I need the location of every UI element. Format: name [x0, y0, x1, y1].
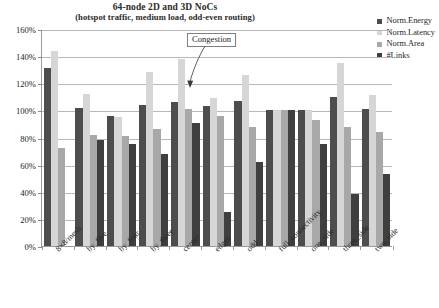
bar[interactable]: [256, 162, 263, 246]
y-axis-tick-label: 140%: [16, 52, 36, 62]
bar-group: [328, 30, 360, 246]
legend-swatch-icon: [377, 19, 382, 24]
bar[interactable]: [107, 116, 114, 246]
bar[interactable]: [337, 63, 344, 246]
bar[interactable]: [122, 136, 129, 246]
bar[interactable]: [83, 94, 90, 246]
bar-group: [74, 30, 106, 246]
bar[interactable]: [281, 110, 288, 246]
bar[interactable]: [114, 117, 121, 246]
legend-item-label: Norm.Area: [386, 40, 424, 48]
bar-group: [106, 30, 138, 246]
bar[interactable]: [44, 68, 51, 246]
bar-group: [265, 30, 297, 246]
bar[interactable]: [330, 97, 337, 246]
bar[interactable]: [234, 101, 241, 246]
chart-container: 64-node 2D and 3D NoCs (hotspot traffic,…: [0, 0, 439, 308]
y-axis-tick-label: 120%: [16, 79, 36, 89]
bar[interactable]: [90, 135, 97, 246]
bar[interactable]: [139, 105, 146, 246]
bar-group: [137, 30, 169, 246]
bar[interactable]: [273, 110, 280, 246]
bar[interactable]: [369, 95, 376, 246]
legend-item[interactable]: Norm.Energy: [377, 17, 435, 25]
bar-group: [42, 30, 74, 246]
bar[interactable]: [153, 129, 160, 246]
bar-group: [360, 30, 392, 246]
y-axis-tick-label: 20%: [20, 215, 36, 225]
bar[interactable]: [210, 98, 217, 246]
congestion-annotation-arrow: [183, 44, 243, 92]
y-axis-tick-label: 60%: [20, 161, 36, 171]
bar[interactable]: [288, 110, 295, 246]
bar[interactable]: [58, 148, 65, 246]
bar[interactable]: [185, 109, 192, 246]
legend-item-label: Norm.Latency: [386, 29, 435, 37]
x-axis-tick: [393, 246, 394, 250]
bar[interactable]: [51, 51, 58, 246]
x-axis-labels: 8×8/meshby_fiveby_fourby_threecenteredge…: [41, 247, 392, 308]
y-axis-tick-label: 40%: [20, 188, 36, 198]
legend-item-label: Norm.Energy: [386, 17, 432, 25]
bar[interactable]: [249, 127, 256, 246]
bar[interactable]: [146, 72, 153, 246]
bar[interactable]: [376, 132, 383, 246]
bar[interactable]: [171, 102, 178, 246]
bar[interactable]: [312, 120, 319, 246]
chart-title-block: 64-node 2D and 3D NoCs (hotspot traffic,…: [0, 2, 330, 23]
bar[interactable]: [242, 75, 249, 246]
y-axis-tick-label: 0%: [25, 242, 36, 252]
y-axis-tick-label: 160%: [16, 25, 36, 35]
bar[interactable]: [203, 106, 210, 246]
y-axis-tick-label: 100%: [16, 106, 36, 116]
bar[interactable]: [217, 116, 224, 246]
y-axis-tick-label: 80%: [20, 134, 36, 144]
bar[interactable]: [344, 127, 351, 246]
bar[interactable]: [266, 110, 273, 246]
chart-subtitle: (hotspot traffic, medium load, odd-even …: [0, 13, 330, 23]
bar[interactable]: [192, 123, 199, 246]
